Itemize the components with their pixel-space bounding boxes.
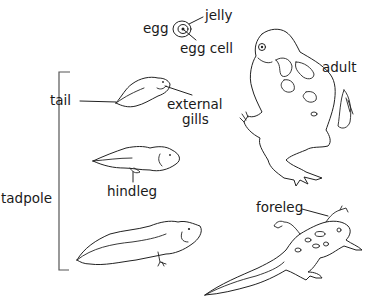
label-tadpole: tadpole bbox=[1, 190, 52, 206]
adult-frog-spot bbox=[276, 58, 292, 77]
leader-tail bbox=[80, 101, 116, 102]
label-egg: egg bbox=[143, 20, 168, 36]
tadpole-3-tail-fin bbox=[77, 234, 166, 260]
tadpole-external-gills-illustration bbox=[116, 77, 170, 107]
froglet-eye bbox=[337, 228, 341, 232]
tadpole-1-body bbox=[116, 77, 170, 107]
adult-frog-spot bbox=[311, 112, 317, 116]
tadpole-hindleg-illustration bbox=[93, 147, 179, 173]
label-tail: tail bbox=[50, 92, 71, 108]
tadpole-3-mouth bbox=[181, 232, 188, 242]
froglet-spot bbox=[324, 242, 329, 246]
tadpole-1-tail-fin bbox=[116, 88, 144, 103]
froglet-spot bbox=[315, 232, 325, 237]
adult-frog-illustration bbox=[240, 29, 353, 186]
tadpole-3-body bbox=[77, 221, 201, 264]
froglet-spot bbox=[295, 248, 301, 252]
tadpole-1-eye bbox=[162, 81, 164, 83]
frog-life-cycle-diagram: egg jelly egg cell adult tadpole tail ex… bbox=[0, 0, 368, 307]
tadpole-3-eye bbox=[188, 228, 190, 230]
leader-egg-cell bbox=[184, 30, 196, 40]
adult-frog-mouth bbox=[258, 58, 272, 63]
adult-frog-pupil bbox=[261, 46, 263, 48]
leader-jelly bbox=[189, 17, 203, 24]
adult-frog-spot bbox=[303, 91, 316, 102]
leader-foreleg bbox=[302, 209, 328, 216]
adult-frog-body bbox=[244, 29, 335, 186]
label-egg-cell: egg cell bbox=[180, 40, 233, 56]
tadpole-1-mouth bbox=[157, 86, 166, 89]
leader-external-gills bbox=[165, 86, 192, 95]
froglet-spot bbox=[313, 244, 320, 248]
label-external-gills-line1: external bbox=[167, 96, 223, 112]
froglet-illustration bbox=[205, 206, 362, 295]
label-foreleg: foreleg bbox=[256, 199, 303, 215]
froglet-tail-fin bbox=[205, 262, 284, 295]
tadpole-2-body bbox=[93, 147, 179, 171]
label-external-gills-line2: gills bbox=[182, 111, 209, 127]
tadpole-2-eye bbox=[169, 154, 171, 156]
adult-frog-spot bbox=[281, 80, 294, 93]
label-adult: adult bbox=[322, 59, 356, 75]
froglet-hindleg bbox=[274, 221, 300, 234]
froglet-foreleg bbox=[326, 206, 348, 222]
label-jelly: jelly bbox=[204, 7, 233, 23]
adult-frog-spot bbox=[295, 62, 314, 79]
froglet-spot bbox=[305, 238, 311, 242]
tadpole-larger-hindleg-illustration bbox=[77, 221, 201, 266]
egg-illustration bbox=[173, 21, 191, 37]
label-hindleg: hindleg bbox=[107, 183, 157, 199]
tadpole-2-mouth bbox=[159, 154, 162, 166]
